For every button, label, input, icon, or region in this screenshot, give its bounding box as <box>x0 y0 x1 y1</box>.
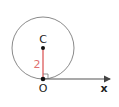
label-o: O <box>39 82 48 95</box>
point-o <box>41 77 46 82</box>
label-c: C <box>39 33 47 46</box>
geometry-diagram: C O x 2 <box>0 0 119 107</box>
label-radius: 2 <box>34 58 41 71</box>
label-x-axis: x <box>100 82 107 95</box>
point-c <box>41 46 45 50</box>
